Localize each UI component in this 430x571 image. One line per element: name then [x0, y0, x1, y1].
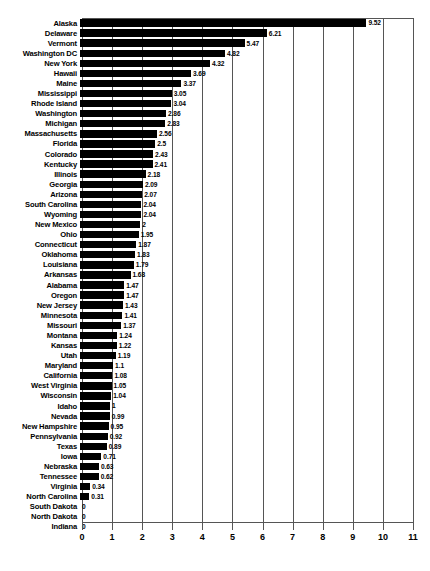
- bar-track: 0.89: [80, 441, 411, 451]
- bar-value-label: 0.99: [110, 413, 124, 420]
- bar: [80, 29, 267, 36]
- bar: [80, 231, 139, 238]
- bar: [80, 342, 117, 349]
- category-label: California: [0, 371, 80, 380]
- bar-track: 1.19: [80, 351, 411, 361]
- bar-track: 1.24: [80, 330, 411, 340]
- category-label: Oregon: [0, 291, 80, 300]
- bar-value-label: 2.04: [141, 201, 155, 208]
- category-label: Connecticut: [0, 240, 80, 249]
- bar-track: 4.82: [80, 48, 411, 58]
- bar: [80, 140, 155, 147]
- bar-row: Delaware6.21: [0, 28, 430, 38]
- bar-track: 1.68: [80, 270, 411, 280]
- bar: [80, 261, 134, 268]
- bar-value-label: 0.62: [99, 473, 113, 480]
- bar-track: 1.05: [80, 381, 411, 391]
- bar-track: 1.47: [80, 290, 411, 300]
- bar-row: Utah1.19: [0, 351, 430, 361]
- bar-row: New Mexico2: [0, 220, 430, 230]
- category-label: Arizona: [0, 190, 80, 199]
- category-label: New Jersey: [0, 301, 80, 310]
- x-tick-4: [202, 523, 203, 530]
- category-label: South Carolina: [0, 200, 80, 209]
- bar-track: 1.83: [80, 250, 411, 260]
- bar-row: Alabama1.47: [0, 280, 430, 290]
- bar-track: 0.99: [80, 411, 411, 421]
- bar-value-label: 1: [110, 402, 116, 409]
- bar-track: 9.52: [80, 18, 411, 28]
- x-tick-label-10: 10: [378, 532, 388, 543]
- bar-row: Maine3.37: [0, 78, 430, 88]
- bar-track: 0.34: [80, 482, 411, 492]
- bar-row: New Hampshire0.95: [0, 421, 430, 431]
- bar-value-label: 2.41: [153, 161, 167, 168]
- bar-value-label: 1.37: [121, 322, 135, 329]
- bar-track: 3.69: [80, 68, 411, 78]
- x-tick-10: [383, 523, 384, 530]
- x-axis-tick-labels: 01234567891011: [82, 532, 413, 546]
- bar-track: 2.43: [80, 149, 411, 159]
- category-label: Texas: [0, 442, 80, 451]
- bar-row: Minnesota1.41: [0, 310, 430, 320]
- bar-row: New York4.32: [0, 58, 430, 68]
- category-label: Maine: [0, 79, 80, 88]
- bar: [80, 301, 123, 308]
- bar-rows: Alaska9.52Delaware6.21Vermont5.47Washing…: [0, 18, 430, 532]
- bar-value-label: 1.79: [134, 261, 148, 268]
- bar: [80, 90, 172, 97]
- bar-value-label: 0.89: [107, 443, 121, 450]
- bar-value-label: 1.47: [124, 282, 138, 289]
- category-label: West Virginia: [0, 381, 80, 390]
- x-tick-label-1: 1: [110, 532, 115, 543]
- bar-value-label: 2.86: [166, 110, 180, 117]
- category-label: South Dakota: [0, 502, 80, 511]
- x-tick-11: [413, 523, 414, 530]
- bar: [80, 322, 121, 329]
- x-tick-label-5: 5: [230, 532, 235, 543]
- bar: [80, 382, 112, 389]
- category-label: Alaska: [0, 19, 80, 28]
- x-tick-label-9: 9: [350, 532, 355, 543]
- category-label: Maryland: [0, 361, 80, 370]
- bar-row: California1.08: [0, 371, 430, 381]
- category-label: Delaware: [0, 29, 80, 38]
- category-label: Utah: [0, 351, 80, 360]
- bar-row: Rhode Island3.04: [0, 99, 430, 109]
- bar-track: 1.79: [80, 260, 411, 270]
- bar-row: Wisconsin1.04: [0, 391, 430, 401]
- bar-track: 3.04: [80, 99, 411, 109]
- category-label: New Mexico: [0, 220, 80, 229]
- bar-value-label: 1.24: [117, 332, 131, 339]
- bar-value-label: 4.32: [210, 60, 224, 67]
- bar-row: Tennessee0.62: [0, 472, 430, 482]
- bar-value-label: 5.47: [245, 40, 259, 47]
- bar-row: Maryland1.1: [0, 361, 430, 371]
- bar-track: 1.87: [80, 240, 411, 250]
- bar-row: Idaho1: [0, 401, 430, 411]
- bar-value-label: 2.56: [157, 130, 171, 137]
- bar-track: 2.09: [80, 179, 411, 189]
- bar-row: Ohio1.95: [0, 230, 430, 240]
- bar-value-label: 1.87: [136, 241, 150, 248]
- bar-row: Texas0.89: [0, 441, 430, 451]
- bar-track: 1.1: [80, 361, 411, 371]
- bar-row: Massachusetts2.56: [0, 129, 430, 139]
- bar-track: 1.04: [80, 391, 411, 401]
- x-tick-label-0: 0: [79, 532, 84, 543]
- bar-value-label: 0.34: [90, 483, 104, 490]
- bar-row: North Dakota0: [0, 512, 430, 522]
- bar-row: Washington DC4.82: [0, 48, 430, 58]
- bar-row: Florida2.5: [0, 139, 430, 149]
- bar: [80, 332, 117, 339]
- bar-value-label: 2.5: [155, 140, 166, 147]
- category-label: Illinois: [0, 170, 80, 179]
- bar: [80, 453, 101, 460]
- category-label: Michigan: [0, 119, 80, 128]
- bar-track: 0.95: [80, 421, 411, 431]
- category-label: Hawaii: [0, 69, 80, 78]
- bar: [80, 402, 110, 409]
- bar-track: 0.31: [80, 492, 411, 502]
- category-label: Tennessee: [0, 472, 80, 481]
- bar: [80, 181, 143, 188]
